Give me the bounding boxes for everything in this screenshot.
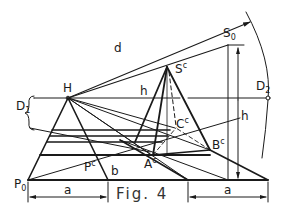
label-Pc: Pc — [84, 160, 96, 173]
label-H: H — [63, 82, 72, 94]
label-Bc: Bc — [212, 138, 225, 151]
label-P0: P0 — [14, 178, 26, 193]
label-b: b — [111, 165, 119, 177]
label-Cc: Cc — [176, 117, 189, 130]
label-a-left: a — [64, 184, 71, 196]
label-d: d — [114, 42, 122, 54]
line-B-ground — [210, 150, 268, 180]
label-Sc: Sc — [175, 62, 187, 75]
label-Ac: Ac — [144, 157, 157, 170]
label-h-horizon: h — [140, 85, 148, 97]
label-a-right: a — [224, 184, 231, 196]
line-H-S0 — [68, 45, 228, 98]
triangle-left-edge — [28, 98, 68, 180]
D2-point — [266, 96, 270, 100]
figure-caption: Fig. 4 — [116, 185, 168, 203]
label-h-height: h — [241, 110, 249, 122]
perspective-construction-diagram — [0, 0, 284, 216]
label-D1: D1 — [16, 100, 30, 115]
label-D2: D2 — [256, 80, 270, 95]
label-S0: S0 — [223, 27, 236, 42]
pyramid-edge-SC — [169, 72, 176, 126]
